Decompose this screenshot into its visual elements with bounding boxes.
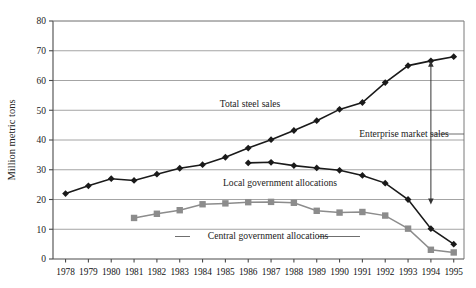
ytick-label-30: 30 <box>37 165 47 175</box>
xtick-label-1990: 1990 <box>330 267 349 277</box>
ytick-label-50: 50 <box>37 106 47 116</box>
marker-square-1991 <box>359 209 365 215</box>
marker-diamond-1995 <box>450 53 457 60</box>
ytick-label-10: 10 <box>37 225 47 235</box>
marker-square-1983 <box>177 207 183 213</box>
xtick-label-1994: 1994 <box>422 267 441 277</box>
ytick-label-70: 70 <box>37 46 47 56</box>
steel-sales-chart: 0102030405060708019781979198019811982198… <box>0 0 476 288</box>
xtick-label-1991: 1991 <box>353 267 372 277</box>
central-government-allocations-label: Central government allocations <box>208 230 329 241</box>
xtick-label-1995: 1995 <box>444 267 463 277</box>
xtick-label-1985: 1985 <box>216 267 235 277</box>
marker-square-1982 <box>154 211 160 217</box>
xtick-label-1988: 1988 <box>285 267 304 277</box>
marker-square-1986 <box>245 199 251 205</box>
marker-diamond-1985 <box>222 154 229 161</box>
marker-square-1990 <box>336 209 342 215</box>
marker-diamond-1991 <box>359 172 366 179</box>
marker-square-1995 <box>451 249 457 255</box>
marker-diamond-1981 <box>131 177 138 184</box>
xtick-label-1980: 1980 <box>102 267 121 277</box>
ytick-label-60: 60 <box>37 76 47 86</box>
marker-square-1994 <box>428 247 434 253</box>
xtick-label-1979: 1979 <box>79 267 98 277</box>
marker-diamond-1982 <box>153 171 160 178</box>
xtick-label-1986: 1986 <box>239 267 258 277</box>
marker-diamond-1986 <box>245 160 252 167</box>
arrow-head-bottom <box>428 199 434 205</box>
marker-square-1992 <box>382 212 388 218</box>
ytick-label-0: 0 <box>41 254 46 264</box>
chart-canvas: 0102030405060708019781979198019811982198… <box>0 0 476 288</box>
total-steel-sales-label: Total steel sales <box>220 98 281 109</box>
xtick-label-1992: 1992 <box>376 267 395 277</box>
marker-diamond-1979 <box>85 182 92 189</box>
xtick-label-1981: 1981 <box>125 267 144 277</box>
marker-diamond-1990 <box>336 167 343 174</box>
marker-square-1985 <box>222 200 228 206</box>
marker-diamond-1978 <box>62 190 69 197</box>
marker-square-1987 <box>268 199 274 205</box>
xtick-label-1978: 1978 <box>56 267 75 277</box>
marker-diamond-1987 <box>268 159 275 166</box>
xtick-label-1983: 1983 <box>170 267 189 277</box>
marker-diamond-1990 <box>336 106 343 113</box>
marker-diamond-1987 <box>268 136 275 143</box>
marker-square-1984 <box>199 201 205 207</box>
ytick-label-40: 40 <box>37 135 47 145</box>
series-total-steel-sales <box>62 53 457 197</box>
ytick-label-80: 80 <box>37 16 47 26</box>
marker-diamond-1980 <box>108 175 115 182</box>
marker-diamond-1988 <box>290 162 297 169</box>
marker-diamond-1983 <box>176 165 183 172</box>
marker-diamond-1984 <box>199 161 206 168</box>
xtick-label-1984: 1984 <box>193 267 212 277</box>
marker-diamond-1989 <box>313 117 320 124</box>
enterprise-market-sales-label: Enterprise market sales <box>359 128 449 139</box>
xtick-label-1993: 1993 <box>399 267 418 277</box>
series-line <box>66 57 454 194</box>
series-central-government-allocations <box>131 199 457 256</box>
ytick-label-20: 20 <box>37 195 47 205</box>
marker-square-1981 <box>131 215 137 221</box>
marker-square-1993 <box>405 225 411 231</box>
marker-square-1988 <box>291 200 297 206</box>
xtick-label-1987: 1987 <box>262 267 281 277</box>
xtick-label-1982: 1982 <box>148 267 167 277</box>
marker-square-1989 <box>314 208 320 214</box>
marker-diamond-1986 <box>245 145 252 152</box>
marker-diamond-1988 <box>290 127 297 134</box>
xtick-label-1989: 1989 <box>307 267 326 277</box>
marker-diamond-1989 <box>313 165 320 172</box>
local-government-allocations-label: Local government allocations <box>223 177 337 188</box>
y-axis-title: Million metric tons <box>6 99 17 180</box>
